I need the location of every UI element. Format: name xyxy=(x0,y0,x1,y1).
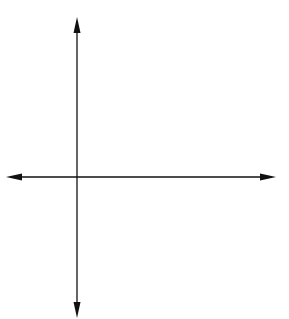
y-axis-down-arrow-icon xyxy=(74,302,81,318)
y-axis-up-arrow-icon xyxy=(74,17,81,33)
x-axis-left-arrow-icon xyxy=(6,174,22,181)
axes xyxy=(6,17,276,318)
coordinate-plane xyxy=(0,0,289,319)
x-axis-right-arrow-icon xyxy=(260,174,276,181)
